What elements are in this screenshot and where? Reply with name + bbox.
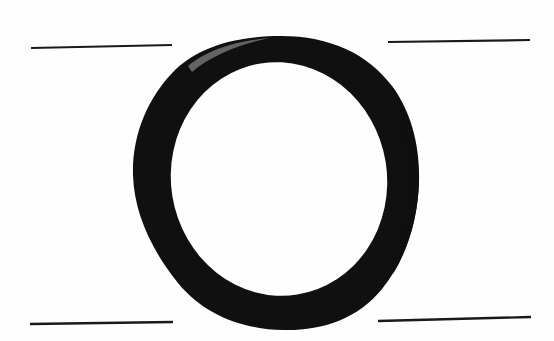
specimen-canvas <box>0 0 554 341</box>
specimen-page: Letter O specimen <box>0 0 554 341</box>
letter-o-glyph <box>0 0 554 341</box>
letter-o-ink <box>0 0 554 341</box>
